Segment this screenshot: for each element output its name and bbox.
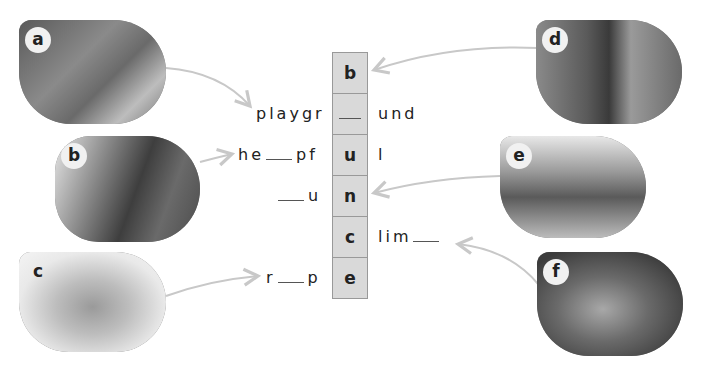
blank-climb[interactable] (413, 229, 439, 242)
letter-column: b u n c e (332, 52, 368, 299)
label-a: a (25, 27, 51, 53)
photo-b-helping: b (55, 136, 200, 242)
blank-rope[interactable] (278, 270, 304, 283)
photo-c-rope: c (19, 252, 166, 352)
word-helpful-left: hepf (238, 145, 318, 164)
word-helpful-right: l (378, 145, 385, 164)
cell-4: n (332, 175, 368, 216)
blank-line (339, 94, 361, 119)
photo-a-playground: a (19, 20, 166, 124)
photo-d-ball: d (536, 20, 682, 124)
cell-5: c (332, 216, 368, 257)
blank-helpful[interactable] (266, 147, 292, 160)
blank-run[interactable] (278, 188, 304, 201)
photo-f-climbing: f (537, 252, 683, 356)
photo-e-running: e (500, 136, 646, 238)
word-climb-right: lim (378, 227, 443, 246)
word-playground-right: und (378, 104, 417, 123)
cell-1: b (332, 52, 368, 93)
cell-2-blank[interactable] (332, 93, 368, 134)
label-c: c (25, 259, 51, 285)
word-run-left: u (276, 186, 321, 205)
label-d: d (542, 27, 568, 53)
word-rope-left: rp (266, 268, 321, 287)
word-playground-left: playgr (256, 104, 325, 123)
cell-3: u (332, 134, 368, 175)
label-f: f (543, 259, 569, 285)
cell-6: e (332, 257, 368, 299)
label-e: e (506, 143, 532, 169)
label-b: b (61, 143, 87, 169)
